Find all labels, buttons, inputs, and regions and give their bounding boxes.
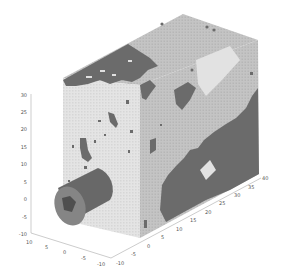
x-tick: 0 (63, 249, 66, 255)
y-tick: 35 (248, 184, 254, 190)
dark-spot (144, 220, 147, 228)
dark-spot (68, 180, 70, 182)
x-tick: 5 (45, 244, 48, 250)
y-tick: 30 (234, 192, 240, 198)
dark-spot (205, 25, 208, 28)
z-tick: 25 (21, 109, 27, 115)
z-axis-ticks: 30 25 20 15 10 5 0 -5 -10 (19, 92, 27, 237)
light-spot (112, 74, 116, 76)
dark-spot (126, 100, 129, 104)
dark-spot (250, 72, 253, 75)
dark-spot (212, 28, 215, 31)
y-tick: 25 (219, 200, 225, 206)
y-tick: 10 (176, 226, 182, 232)
dark-spot (104, 134, 106, 136)
dark-spot (72, 145, 74, 148)
dark-spot (98, 120, 101, 122)
x-tick: -10 (97, 261, 105, 267)
x-axis-ticks: 10 5 0 -5 -10 (26, 239, 105, 267)
z-tick: 5 (24, 179, 27, 185)
y-tick: 20 (205, 209, 211, 215)
y-tick: 5 (161, 234, 164, 240)
z-tick: -10 (19, 231, 27, 237)
x-tick: -5 (81, 255, 86, 261)
voxel-figure: 30 25 20 15 10 5 0 -5 -10 10 5 0 -5 -10 … (0, 0, 285, 278)
z-tick: 15 (21, 144, 27, 150)
y-tick: 40 (262, 175, 268, 181)
z-tick: 20 (21, 126, 27, 132)
z-tick: 10 (21, 161, 27, 167)
x-tick: 10 (26, 239, 32, 245)
x-axis-line (31, 233, 111, 258)
y-tick: 0 (147, 243, 150, 249)
light-spot (86, 76, 92, 78)
dark-spot (84, 166, 87, 169)
light-spot (128, 60, 132, 62)
z-tick: 0 (24, 196, 27, 202)
z-tick: -5 (22, 214, 27, 220)
dark-spot (130, 130, 133, 133)
z-tick: 30 (21, 92, 27, 98)
dark-spot (160, 124, 162, 126)
y-tick: -10 (116, 260, 124, 266)
dark-spot (160, 22, 163, 25)
dark-spot (128, 150, 130, 153)
y-tick: 15 (190, 217, 196, 223)
light-spot (100, 70, 105, 72)
dark-spot (94, 140, 96, 143)
dark-spot (191, 69, 194, 72)
y-tick: -5 (131, 251, 136, 257)
